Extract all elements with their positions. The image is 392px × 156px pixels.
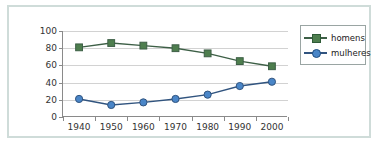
legend-item-homens: homens	[304, 30, 361, 45]
y-axis-label: 0	[51, 112, 57, 122]
chart-plot-wrapper: 020406080100 194019501960197019801990200…	[9, 7, 373, 140]
plot-area: 020406080100 194019501960197019801990200…	[62, 31, 287, 117]
chart-frame: 020406080100 194019501960197019801990200…	[7, 5, 371, 138]
data-point-homens-1940	[76, 44, 83, 51]
legend-item-mulheres: mulheres	[304, 45, 361, 60]
data-point-homens-1990	[236, 58, 243, 65]
x-axis-label: 1980	[196, 122, 219, 132]
legend-key-mulheres	[304, 47, 327, 58]
square-marker-icon	[312, 34, 321, 43]
x-tick-mark	[127, 117, 128, 121]
data-point-homens-1960	[140, 42, 147, 49]
x-tick-mark	[63, 117, 64, 121]
x-tick-mark	[256, 117, 257, 121]
chart-legend: homens mulheres	[300, 25, 366, 65]
x-tick-mark	[159, 117, 160, 121]
y-axis-label: 80	[46, 43, 57, 53]
x-tick-mark	[224, 117, 225, 121]
data-point-mulheres-1950	[108, 101, 115, 108]
data-point-homens-1950	[108, 40, 115, 47]
data-point-mulheres-2000	[268, 78, 275, 85]
x-axis-label: 2000	[260, 122, 283, 132]
data-point-homens-1970	[172, 45, 179, 52]
series-layer	[63, 31, 288, 117]
data-point-mulheres-1970	[172, 95, 179, 102]
x-axis-label: 1950	[100, 122, 123, 132]
legend-label-mulheres: mulheres	[331, 48, 371, 58]
x-axis-label: 1960	[132, 122, 155, 132]
y-axis-label: 60	[46, 60, 57, 70]
x-axis-label: 1990	[228, 122, 251, 132]
legend-label-homens: homens	[331, 33, 365, 43]
circle-marker-icon	[312, 49, 321, 58]
data-point-mulheres-1980	[204, 91, 211, 98]
x-axis-label: 1940	[68, 122, 91, 132]
data-point-mulheres-1990	[236, 82, 243, 89]
data-point-homens-1980	[204, 50, 211, 57]
data-point-mulheres-1960	[140, 99, 147, 106]
data-point-mulheres-1940	[75, 95, 82, 102]
x-tick-mark	[192, 117, 193, 121]
data-point-homens-2000	[269, 63, 276, 70]
x-tick-mark	[95, 117, 96, 121]
y-axis-label: 20	[46, 95, 57, 105]
y-axis-label: 40	[46, 78, 57, 88]
x-axis-label: 1970	[164, 122, 187, 132]
y-axis-label: 100	[40, 26, 57, 36]
legend-key-homens	[304, 32, 327, 43]
x-tick-mark	[288, 117, 289, 121]
